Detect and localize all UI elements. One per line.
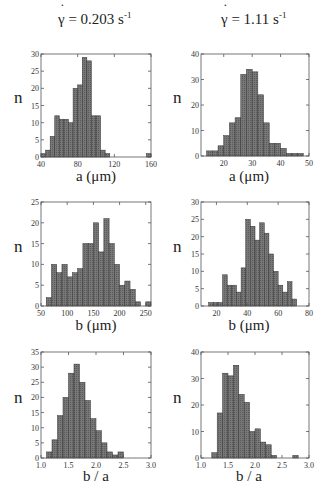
histogram-bar	[228, 376, 233, 458]
histogram-bar	[250, 432, 255, 459]
histogram-bar	[239, 394, 244, 458]
x-tick-label: 2.5	[277, 461, 287, 470]
y-tick-label: 10	[191, 428, 199, 437]
y-tick-label: 30	[191, 375, 199, 384]
histogram-bar	[266, 445, 271, 458]
histogram-bar	[233, 365, 238, 458]
histogram-bar	[244, 402, 249, 458]
histogram-bar	[212, 453, 217, 458]
histogram-bar	[217, 413, 222, 458]
histogram-bar	[260, 442, 265, 458]
histogram-bar	[223, 373, 228, 458]
x-tick-label: 3.0	[304, 461, 314, 470]
x-tick-label: 1.5	[223, 461, 233, 470]
y-tick-label: 0	[195, 454, 199, 463]
y-tick-label: 20	[191, 401, 199, 410]
y-axis-label: n	[173, 388, 182, 408]
y-tick-label: 40	[191, 348, 199, 357]
histogram-bar	[255, 429, 260, 458]
x-axis-label: b / a	[236, 468, 262, 485]
